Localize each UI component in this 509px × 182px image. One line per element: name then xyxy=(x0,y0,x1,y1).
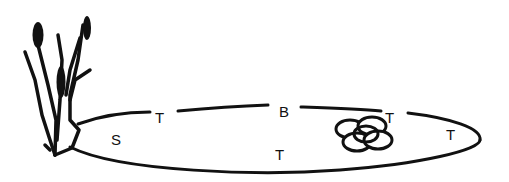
label-t-upper-right: T xyxy=(385,110,394,125)
label-s-left: S xyxy=(111,132,121,147)
label-t-right: T xyxy=(446,127,455,142)
cattail-plant xyxy=(25,16,91,155)
label-t-bottom-middle: T xyxy=(275,147,284,162)
diagram-canvas: S T B T T T xyxy=(0,0,509,182)
label-t-upper-left: T xyxy=(155,110,164,125)
label-b-top: B xyxy=(279,104,289,119)
egg-cluster xyxy=(336,117,392,151)
diagram-drawing xyxy=(0,0,509,182)
